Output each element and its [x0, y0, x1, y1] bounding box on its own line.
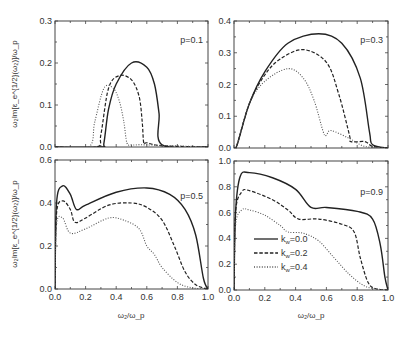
series-line-dotted — [234, 69, 388, 149]
panel-p01: 0.00.10.20.3p=0.1 — [39, 16, 208, 152]
x-tick-label: 0.4 — [110, 292, 123, 302]
x-tick-label: 1.0 — [382, 293, 395, 303]
panel-p09: 0.00.20.40.60.81.00.00.20.40.60.81.0p=0.… — [218, 156, 394, 303]
y-axis-label: ω₂Im[ε_e^{1/2}(ω₂)]/ω_p — [10, 40, 19, 128]
y-tick-label: 0.4 — [218, 16, 231, 26]
x-tick-label: 0.8 — [171, 292, 184, 302]
plot-frame — [55, 160, 208, 289]
x-axis-label: ω₂/ω_p — [118, 311, 145, 320]
legend: kw=0.0kw=0.2kw=0.4 — [254, 234, 308, 273]
series-line-dotted — [234, 209, 388, 290]
series-line-solid — [55, 62, 208, 148]
panel-p03: 0.00.10.20.30.4p=0.3 — [218, 16, 388, 153]
y-tick-label: 0.4 — [39, 198, 52, 208]
x-tick-label: 0.2 — [259, 293, 272, 303]
y-tick-label: 0.1 — [218, 111, 231, 121]
plot-frame — [234, 161, 388, 290]
y-tick-label: 0.0 — [39, 142, 52, 152]
y-tick-label: 0.4 — [218, 233, 231, 243]
series-line-dashed — [55, 201, 208, 289]
panel-title: p=0.9 — [360, 187, 383, 197]
y-tick-label: 0.1 — [39, 100, 52, 110]
y-tick-label: 0.3 — [218, 48, 231, 58]
figure: 0.00.10.20.3p=0.10.00.10.20.30.4p=0.30.0… — [0, 0, 409, 338]
series-line-dotted — [55, 216, 208, 289]
panel-p05: 0.00.20.40.60.00.20.40.60.81.0p=0.5 — [39, 155, 214, 302]
x-tick-label: 1.0 — [202, 292, 215, 302]
y-tick-label: 0.2 — [218, 259, 231, 269]
y-tick-label: 0.8 — [218, 182, 231, 192]
y-tick-label: 0.3 — [39, 16, 52, 26]
x-axis-label: ω₂/ω_p — [298, 311, 325, 320]
panel-title: p=0.1 — [180, 35, 203, 45]
series-line-solid — [55, 186, 208, 289]
x-tick-label: 0.6 — [141, 292, 154, 302]
y-tick-label: 1.0 — [218, 156, 231, 166]
y-tick-label: 0.2 — [218, 80, 231, 90]
y-axis-label: ω₂Im[ε_e^{1/2}(ω₂)]/ω_p — [10, 180, 19, 268]
legend-label: kw=0.2 — [281, 248, 308, 259]
panel-title: p=0.3 — [360, 35, 383, 45]
series-line-solid — [234, 34, 388, 149]
series-line-dashed — [55, 75, 208, 148]
y-tick-label: 0.0 — [218, 143, 231, 153]
y-tick-label: 0.6 — [218, 208, 231, 218]
x-tick-label: 0.2 — [79, 292, 92, 302]
x-tick-label: 0.0 — [49, 292, 62, 302]
legend-label: kw=0.4 — [281, 262, 308, 273]
y-tick-label: 0.6 — [39, 155, 52, 165]
series-line-dashed — [234, 189, 388, 290]
series-line-dotted — [55, 85, 208, 149]
y-tick-label: 0.2 — [39, 241, 52, 251]
x-tick-label: 0.0 — [228, 293, 241, 303]
panel-title: p=0.5 — [180, 191, 203, 201]
x-tick-label: 0.6 — [320, 293, 333, 303]
x-tick-label: 0.4 — [289, 293, 302, 303]
y-tick-label: 0.2 — [39, 58, 52, 68]
legend-label: kw=0.0 — [281, 234, 308, 245]
x-tick-label: 0.8 — [351, 293, 364, 303]
